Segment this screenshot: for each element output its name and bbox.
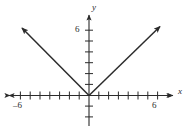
curve-right-branch: [89, 27, 160, 96]
coordinate-plane-svg: [0, 0, 189, 133]
y-axis-label: y: [92, 3, 96, 12]
y-axis-group: [85, 15, 93, 126]
graph-figure: y x 6 –6 6: [0, 0, 189, 133]
y-tick-label-6: 6: [75, 25, 80, 34]
x-tick-label-6: 6: [152, 101, 157, 110]
curve-left-branch: [22, 28, 89, 96]
x-axis-label: x: [178, 87, 182, 96]
x-tick-label-neg6: –6: [13, 101, 22, 110]
absolute-value-curve: [22, 27, 160, 96]
